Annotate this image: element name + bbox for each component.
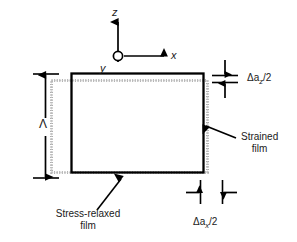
figure-canvas: z x y Λ Δaz/2 Δax/2 Strained film Stress… <box>0 0 297 242</box>
strained-film-callout: Strained film <box>241 131 278 154</box>
stress-relaxed-film-callout: Stress-relaxed film <box>33 208 143 231</box>
horizontal-gap-suffix: /2 <box>209 216 217 227</box>
strained-film-callout-line2: film <box>241 143 278 155</box>
stress-relaxed-film-rectangle <box>72 74 204 173</box>
vertical-gap-label: Δaz/2 <box>247 72 271 87</box>
stress-relaxed-film-leader-line <box>97 179 121 210</box>
vertical-gap-prefix: Δa <box>247 72 259 83</box>
origin-circle-y-axis <box>113 51 122 60</box>
x-axis-label: x <box>171 49 177 62</box>
vertical-gap-suffix: /2 <box>263 72 271 83</box>
horizontal-gap-label: Δax/2 <box>193 216 217 231</box>
vertical-gap-dimension <box>212 60 238 98</box>
coordinate-axes <box>113 22 164 62</box>
stress-relaxed-film-callout-line2: film <box>33 220 143 232</box>
z-axis-label: z <box>112 6 118 19</box>
strained-film-rectangle <box>52 81 208 173</box>
strained-film-callout-line1: Strained <box>241 131 278 143</box>
period-label: Λ <box>39 118 47 132</box>
strained-film-leader-line <box>206 126 236 138</box>
horizontal-gap-dimension <box>186 180 237 204</box>
y-axis-label: y <box>100 62 106 75</box>
stress-relaxed-film-callout-line1: Stress-relaxed <box>33 208 143 220</box>
horizontal-gap-prefix: Δa <box>193 216 205 227</box>
